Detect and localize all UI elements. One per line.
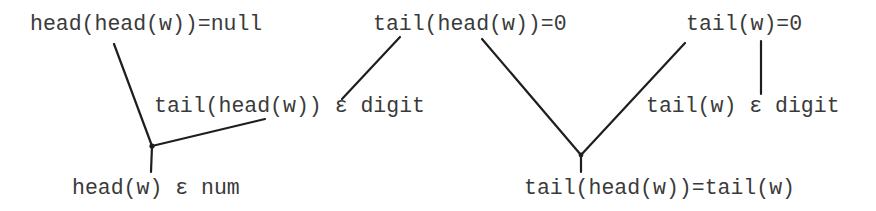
- node-head-w-in-num: head(w) ε num: [72, 177, 240, 199]
- node-tail-head-in-digit: tail(head(w)) ε digit: [154, 95, 425, 117]
- edge-stem-head-num: [151, 146, 152, 172]
- node-tail-w-in-digit: tail(w) ε digit: [646, 95, 840, 117]
- junction-left: [149, 143, 154, 148]
- junction-right: [579, 153, 584, 158]
- node-tail-head-zero: tail(head(w))=0: [373, 13, 567, 35]
- edge-tail-head-digit-to-head-num: [152, 119, 265, 146]
- edge-tail-head-zero-to-tail-head-digit: [342, 37, 400, 99]
- node-head-head-null: head(head(w))=null: [30, 13, 262, 35]
- edge-head-null-to-head-num: [114, 44, 152, 146]
- edge-tail-head-zero-to-equality: [482, 39, 581, 155]
- node-tail-head-equals-tail-w: tail(head(w))=tail(w): [524, 177, 795, 199]
- node-tail-w-zero: tail(w)=0: [686, 13, 802, 35]
- proof-tree-diagram: head(head(w))=null tail(head(w))=0 tail(…: [0, 0, 876, 211]
